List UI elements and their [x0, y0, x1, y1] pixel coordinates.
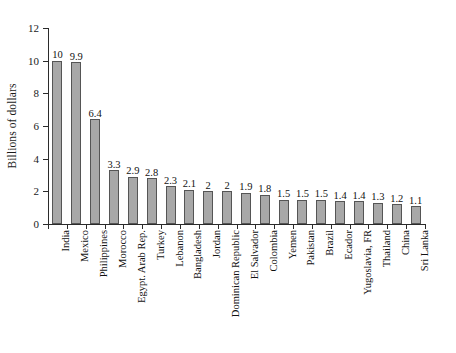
bar[interactable]: 1.5: [316, 200, 326, 225]
bar-slot: 10: [52, 28, 62, 224]
bar-value-label: 9.9: [70, 52, 83, 63]
bar-value-label: 2: [206, 181, 211, 192]
bar-value-label: 1.3: [371, 192, 384, 203]
bar-value-label: 1.2: [390, 194, 403, 205]
bar-slot: 2.8: [147, 28, 157, 224]
bar[interactable]: 2.3: [166, 186, 176, 224]
y-axis-tick-label: 2: [0, 186, 39, 197]
bar[interactable]: 3.3: [109, 170, 119, 224]
x-axis-tick: [86, 224, 87, 229]
x-axis-tick: [218, 224, 219, 229]
y-axis-tick-label: 8: [0, 88, 39, 99]
bar[interactable]: 1.5: [297, 200, 307, 225]
bar[interactable]: 10: [52, 61, 62, 224]
bar-slot: 9.9: [71, 28, 81, 224]
bar-value-label: 2.3: [164, 176, 177, 187]
plot-area: 109.96.43.32.92.82.32.1221.91.81.51.51.5…: [48, 28, 425, 224]
bar[interactable]: 2.9: [128, 177, 138, 224]
x-axis-tick: [331, 224, 332, 229]
bar-value-label: 2.8: [145, 168, 158, 179]
bar-slot: 2: [222, 28, 232, 224]
x-axis-category-label: Pakistan: [306, 230, 317, 266]
bar-slot: 2.1: [184, 28, 194, 224]
x-axis-category-label: Bangladesh: [193, 230, 204, 279]
x-axis-tick: [425, 224, 426, 229]
y-axis-tick-label: 0: [0, 219, 39, 230]
x-axis-category-label: Sri Lanka: [420, 230, 431, 271]
x-axis-tick: [180, 224, 181, 229]
x-axis-tick: [406, 224, 407, 229]
bar[interactable]: 1.1: [411, 206, 421, 224]
bar-slot: 1.2: [392, 28, 402, 224]
x-axis-category-label: Turkey: [156, 230, 167, 260]
x-axis-category-label: Lebanon: [175, 230, 186, 267]
bar-value-label: 1.8: [258, 184, 271, 195]
bar[interactable]: 1.4: [335, 201, 345, 224]
bar-slot: 1.8: [260, 28, 270, 224]
x-axis-tick: [48, 224, 49, 229]
bar-value-label: 1.1: [409, 196, 422, 207]
x-axis-tick: [350, 224, 351, 229]
bar-value-label: 2.1: [183, 179, 196, 190]
bar-slot: 1.4: [335, 28, 345, 224]
x-axis-category-label: Yugoslavia, FR: [363, 230, 374, 295]
x-axis-category-label: El Salvador: [250, 230, 261, 279]
x-axis-category-label: Mexico: [80, 230, 91, 262]
x-axis-category-label: China: [401, 230, 412, 255]
bar-slot: 3.3: [109, 28, 119, 224]
bar[interactable]: 1.4: [354, 201, 364, 224]
bar-slot: 1.5: [297, 28, 307, 224]
bar-value-label: 1.5: [296, 189, 309, 200]
bar-slot: 1.3: [373, 28, 383, 224]
bar-value-label: 1.5: [315, 189, 328, 200]
bar[interactable]: 1.3: [373, 203, 383, 224]
x-axis-category-label: Yemen: [288, 230, 299, 259]
x-axis-tick: [293, 224, 294, 229]
bar[interactable]: 6.4: [90, 119, 100, 224]
x-axis-tick: [237, 224, 238, 229]
bar[interactable]: 2: [222, 191, 232, 224]
bar-value-label: 2: [224, 181, 229, 192]
bar-slot: 6.4: [90, 28, 100, 224]
x-axis-tick: [161, 224, 162, 229]
x-axis-category-label: Thailand: [382, 230, 393, 267]
bar[interactable]: 2.1: [184, 190, 194, 224]
bar[interactable]: 1.9: [241, 193, 251, 224]
x-axis-tick: [105, 224, 106, 229]
y-axis-tick-label: 12: [0, 23, 39, 34]
bar-value-label: 2.9: [126, 166, 139, 177]
x-axis-category-label: Brazil: [325, 230, 336, 256]
bar-value-label: 10: [52, 50, 63, 61]
x-axis-tick: [142, 224, 143, 229]
bar-slot: 1.5: [279, 28, 289, 224]
x-axis-tick: [274, 224, 275, 229]
x-axis-category-label: Dominican Republic: [231, 230, 242, 317]
bar-slot: 1.1: [411, 28, 421, 224]
bar[interactable]: 1.8: [260, 195, 270, 224]
bar[interactable]: 2.8: [147, 178, 157, 224]
x-axis-tick: [255, 224, 256, 229]
x-axis-tick: [387, 224, 388, 229]
x-axis-category-label: India: [61, 230, 72, 252]
bar-value-label: 6.4: [89, 109, 102, 120]
x-axis-category-label: Jordan: [212, 230, 223, 258]
bar[interactable]: 9.9: [71, 62, 81, 224]
bar[interactable]: 1.5: [279, 200, 289, 225]
bar-value-label: 1.5: [277, 189, 290, 200]
x-axis-category-label: Morocco: [118, 230, 129, 268]
bar-chart-figure: Billions of dollars 024681012 109.96.43.…: [0, 0, 456, 353]
bar-slot: 1.9: [241, 28, 251, 224]
bar[interactable]: 1.2: [392, 204, 402, 224]
x-axis-category-label: Egypt. Arab Rep.: [137, 230, 148, 303]
x-axis-tick: [67, 224, 68, 229]
bar-value-label: 1.4: [334, 191, 347, 202]
bar-value-label: 1.9: [239, 182, 252, 193]
x-axis-tick: [312, 224, 313, 229]
bar-value-label: 3.3: [107, 160, 120, 171]
x-axis-tick: [123, 224, 124, 229]
x-axis-tick: [199, 224, 200, 229]
bar-slot: 2: [203, 28, 213, 224]
bar[interactable]: 2: [203, 191, 213, 224]
x-axis-category-label: Philippines: [99, 230, 110, 277]
x-axis-category-label: Ecador: [344, 230, 355, 260]
